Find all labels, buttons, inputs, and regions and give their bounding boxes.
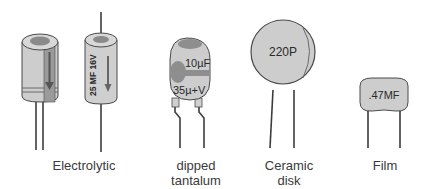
film-capacitor: .47MF: [360, 78, 408, 148]
lead: [270, 90, 273, 148]
lead-coating: [172, 98, 179, 107]
can-top-seal: [93, 36, 109, 43]
can-top-seal: [30, 37, 50, 46]
lead: [175, 103, 180, 148]
label-line: disk: [254, 173, 324, 188]
bead-band: [180, 70, 210, 76]
label-line: Ceramic: [254, 158, 324, 173]
electrolytic-axial-capacitor: 25 MF 16V: [85, 12, 117, 152]
film-marking: .47MF: [368, 89, 399, 101]
label-line: tantalum: [156, 173, 236, 188]
label-line: dipped: [156, 158, 236, 173]
ceramic-marking: 220P: [269, 45, 297, 59]
bead-top-shading: [178, 39, 202, 49]
label-film: Film: [360, 158, 410, 173]
axial-marking: 25 MF 16V: [88, 54, 98, 96]
lead: [199, 103, 204, 148]
label-dipped-tantalum: dipped tantalum: [156, 158, 236, 188]
dipped-tantalum-capacitor: 10µF 35µ+V: [170, 38, 211, 148]
ceramic-disk-capacitor: 220P: [251, 20, 315, 148]
tantalum-marking-top: 10µF: [185, 57, 211, 69]
electrolytic-radial-capacitor: [22, 34, 58, 150]
label-ceramic-disk: Ceramic disk: [254, 158, 324, 188]
tantalum-marking-bottom: 35µ+V: [173, 84, 206, 96]
label-electrolytic: Electrolytic: [28, 158, 140, 173]
